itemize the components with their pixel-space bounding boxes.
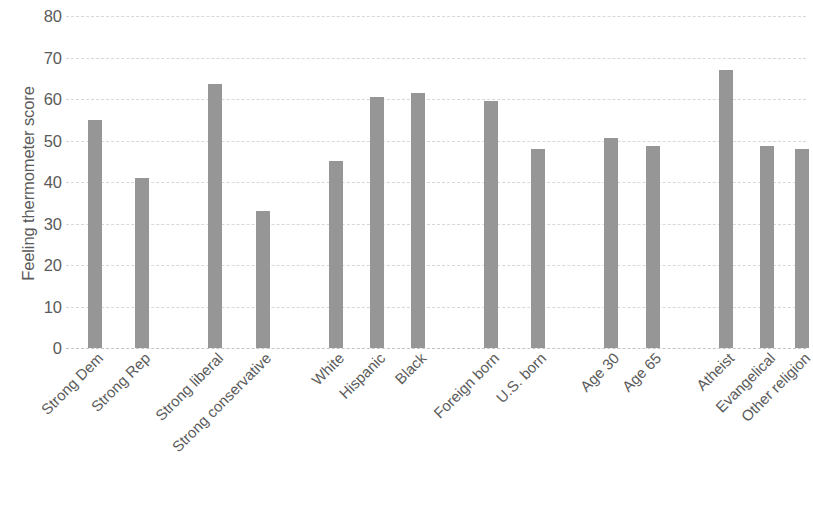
x-axis-tick-labels: Strong DemStrong RepStrong liberalStrong… [66,350,806,500]
plot-area [66,16,806,348]
y-axis-tick-label: 40 [18,174,62,191]
bar[interactable] [719,70,733,348]
bar[interactable] [370,97,384,348]
bar[interactable] [795,149,809,348]
y-axis-tick-label: 80 [18,8,62,25]
bar[interactable] [88,120,102,348]
y-axis-tick-label: 60 [18,91,62,108]
bar[interactable] [531,149,545,348]
bar[interactable] [760,146,774,348]
y-axis-tick-label: 10 [18,298,62,315]
bar[interactable] [411,93,425,348]
bars-layer [66,16,806,348]
bar[interactable] [484,101,498,348]
bar[interactable] [256,211,270,348]
gridline [66,348,806,349]
y-axis-tick-label: 70 [18,49,62,66]
y-axis-tick-label: 20 [18,257,62,274]
bar[interactable] [604,138,618,348]
y-axis-tick-label: 30 [18,215,62,232]
y-axis-tick-labels: 80706050403020100 [18,0,62,356]
y-axis-tick-label: 50 [18,132,62,149]
y-axis-tick-label: 0 [18,340,62,357]
bar[interactable] [208,84,222,348]
bar[interactable] [135,178,149,348]
bar[interactable] [646,146,660,348]
bar[interactable] [329,161,343,348]
